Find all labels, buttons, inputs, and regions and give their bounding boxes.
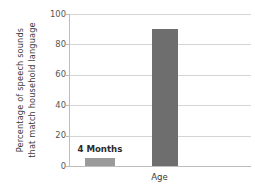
y-tick-label-0: 0 [42, 162, 66, 171]
y-axis-title-line-2: that match household language [27, 22, 37, 158]
bar-4-months [85, 158, 115, 166]
gridline-100 [70, 14, 251, 15]
y-tickmark-20 [66, 136, 70, 137]
y-tick-label-40: 40 [42, 101, 66, 110]
y-tick-label-20: 20 [42, 131, 66, 140]
y-tickmark-60 [66, 75, 70, 76]
y-tick-label-80: 80 [42, 40, 66, 49]
y-axis-tick-labels: 100 80 60 40 20 0 [40, 0, 66, 194]
x-axis-title: Age [69, 172, 250, 182]
y-tickmark-100 [66, 14, 70, 15]
y-tick-label-60: 60 [42, 70, 66, 79]
bar-chart: Percentage of speech sounds that match h… [0, 0, 255, 194]
bar-second-age [152, 29, 178, 166]
y-axis-title: Percentage of speech sounds that match h… [8, 0, 44, 180]
y-axis-title-line-1: Percentage of speech sounds [15, 28, 25, 153]
y-tickmark-80 [66, 44, 70, 45]
bar-annotation-4-months: 4 Months [77, 144, 122, 154]
plot-area: 4 Months [69, 14, 251, 167]
y-tickmark-40 [66, 105, 70, 106]
y-tick-label-100: 100 [42, 10, 66, 19]
y-tickmark-0 [66, 166, 70, 167]
